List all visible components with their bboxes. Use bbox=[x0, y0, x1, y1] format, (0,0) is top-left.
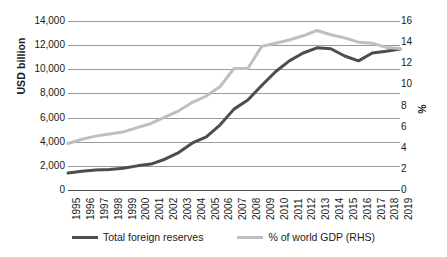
chart-legend: Total foreign reserves% of world GDP (RH… bbox=[0, 231, 447, 243]
legend-label: % of world GDP (RHS) bbox=[268, 231, 375, 243]
gridlines bbox=[68, 22, 400, 191]
series-lines bbox=[68, 31, 400, 174]
series-line-1 bbox=[68, 48, 400, 173]
legend-swatch-icon bbox=[237, 236, 263, 239]
foreign-reserves-chart: USD billion % 02,0004,0006,0008,00010,00… bbox=[0, 0, 447, 257]
plot-area bbox=[0, 0, 447, 257]
legend-item-2[interactable]: % of world GDP (RHS) bbox=[237, 231, 375, 243]
legend-swatch-icon bbox=[72, 236, 98, 239]
legend-label: Total foreign reserves bbox=[103, 231, 203, 243]
legend-item-1[interactable]: Total foreign reserves bbox=[72, 231, 203, 243]
series-line-2 bbox=[68, 31, 400, 144]
